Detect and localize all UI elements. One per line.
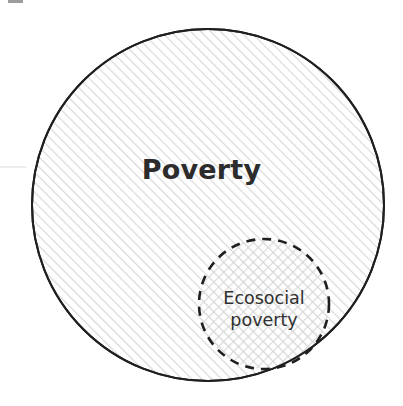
venn-diagram-canvas xyxy=(0,0,403,406)
venn-diagram-figure: Poverty Ecosocial poverty xyxy=(0,0,403,406)
scan-artifact-left-edge xyxy=(0,166,26,168)
scan-artifact-top-left xyxy=(8,0,23,3)
